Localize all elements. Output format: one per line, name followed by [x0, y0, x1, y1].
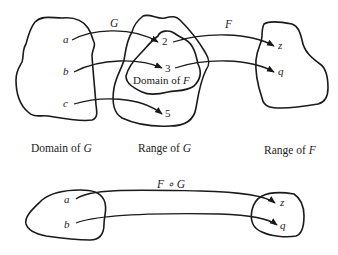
element-q: q [278, 66, 284, 77]
caption-range-g: Range of G [138, 143, 191, 155]
element-5: 5 [165, 108, 171, 119]
arrow-f-3-to-q [175, 61, 274, 72]
arrow-f-2-to-z [173, 35, 274, 46]
arrow-fg-b-to-q [76, 214, 277, 225]
composition-element-q: q [280, 220, 286, 231]
element-2: 2 [162, 36, 168, 47]
element-b: b [63, 66, 69, 77]
element-3: 3 [165, 63, 171, 74]
arrow-g-a-to-2 [72, 31, 158, 42]
element-c: c [63, 98, 68, 109]
composition-range-outline [251, 193, 304, 237]
caption-range-f: Range of F [264, 145, 316, 157]
arrow-g-b-to-3 [74, 61, 162, 72]
composition-element-b: b [64, 219, 70, 230]
element-a: a [63, 34, 69, 45]
element-z: z [278, 40, 282, 51]
domain-g-set-outline [16, 17, 97, 120]
function-composition-diagram [0, 0, 338, 255]
function-label-f: F [225, 19, 232, 31]
composition-element-a: a [64, 194, 70, 205]
domain-f-inner-caption: Domain of F [133, 75, 190, 86]
composition-element-z: z [280, 197, 284, 208]
function-label-g: G [110, 18, 118, 30]
composition-label: F ∘ G [157, 179, 185, 191]
arrow-fg-a-to-z [76, 190, 275, 203]
caption-domain-g: Domain of G [31, 143, 92, 155]
range-f-set-outline [256, 22, 328, 108]
arrow-g-c-to-5 [74, 99, 162, 114]
